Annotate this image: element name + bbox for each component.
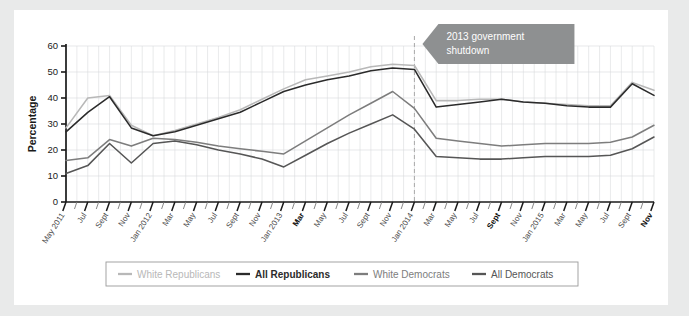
- legend-label: All Democrats: [491, 269, 553, 280]
- x-tick-label: May: [574, 211, 590, 229]
- y-axis-title: Percentage: [26, 96, 38, 153]
- x-axis-ticks: [63, 202, 654, 211]
- x-tick-label: Mar: [291, 211, 306, 228]
- annotation-line-2: shutdown: [446, 45, 489, 56]
- annotation-line-1: 2013 government: [446, 31, 524, 42]
- legend-label: All Republicans: [255, 269, 330, 280]
- x-tick-label: May: [182, 211, 198, 229]
- y-tick-label: 60: [47, 40, 58, 51]
- y-tick-label: 50: [47, 66, 58, 77]
- y-tick-label: 30: [47, 118, 58, 129]
- y-axis-ticks: 0102030405060: [47, 40, 66, 207]
- x-tick-label: Sept: [616, 211, 633, 230]
- y-tick-label: 0: [53, 196, 58, 207]
- x-tick-label: Jul: [206, 211, 219, 225]
- x-tick-label: Jul: [337, 211, 350, 225]
- x-tick-label: Nov: [378, 211, 393, 228]
- x-tick-label: May: [312, 211, 328, 229]
- x-tick-label: Sept: [485, 211, 502, 231]
- x-tick-label: Nov: [117, 211, 132, 228]
- y-tick-label: 20: [47, 144, 58, 155]
- x-tick-label: Mar: [422, 211, 437, 228]
- x-tick-label: May: [443, 211, 459, 229]
- x-tick-label: Sept: [355, 211, 372, 230]
- x-tick-label: Jan 2015: [520, 211, 546, 244]
- y-tick-label: 10: [47, 170, 58, 181]
- chart-svg: 0102030405060PercentageMay 2011JulSeptNo…: [14, 10, 668, 305]
- x-tick-label: Nov: [247, 211, 262, 228]
- annotation-shape: [422, 24, 574, 64]
- y-tick-label: 40: [47, 92, 58, 103]
- legend-label: White Democrats: [373, 269, 450, 280]
- x-tick-label: Jul: [75, 211, 88, 225]
- legend-label: White Republicans: [137, 269, 220, 280]
- x-tick-label: Sept: [224, 211, 241, 230]
- x-tick-label: May 2011: [40, 211, 67, 245]
- x-tick-label: Nov: [639, 211, 655, 229]
- x-tick-label: Sept: [94, 211, 111, 230]
- x-tick-label: Jan 2012: [128, 211, 154, 244]
- shutdown-annotation: 2013 governmentshutdown: [422, 24, 574, 64]
- x-tick-label: Mar: [161, 211, 176, 228]
- figure-card: 0102030405060PercentageMay 2011JulSeptNo…: [14, 10, 668, 305]
- x-tick-label: Mar: [553, 211, 568, 228]
- line-chart: 0102030405060PercentageMay 2011JulSeptNo…: [14, 10, 668, 305]
- x-tick-label: Jul: [467, 211, 480, 225]
- x-tick-label: Jul: [598, 211, 611, 225]
- x-tick-label: Nov: [509, 211, 524, 228]
- x-tick-label: Jan 2014: [390, 211, 416, 244]
- x-tick-label: Jan 2013: [259, 211, 285, 244]
- x-tick-labels: May 2011JulSeptNovJan 2012MarMayJulSeptN…: [40, 211, 655, 246]
- legend: White RepublicansAll RepublicansWhite De…: [106, 262, 578, 286]
